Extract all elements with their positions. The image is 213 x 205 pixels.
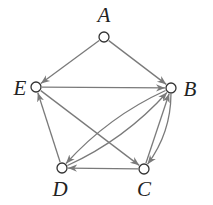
node-b: [166, 83, 176, 93]
node-e: [31, 82, 41, 92]
directed-graph-diagram: ABCDE: [0, 0, 213, 205]
edges-group: [38, 41, 171, 169]
edge-d-to-b: [67, 92, 167, 165]
node-label-d: D: [51, 177, 67, 201]
edge-a-to-b: [109, 41, 166, 85]
node-c: [139, 164, 149, 174]
nodes-group: [31, 32, 176, 174]
node-a: [99, 32, 109, 42]
node-label-b: B: [184, 77, 197, 101]
edge-e-to-b: [42, 87, 165, 88]
node-label-e: E: [13, 76, 27, 100]
node-label-a: A: [96, 3, 111, 27]
node-label-c: C: [137, 177, 152, 201]
edge-b-to-c: [148, 94, 171, 164]
edge-a-to-e: [41, 41, 99, 84]
node-d: [57, 163, 67, 173]
edge-c-to-d: [68, 168, 138, 169]
edge-b-to-d: [66, 90, 166, 163]
